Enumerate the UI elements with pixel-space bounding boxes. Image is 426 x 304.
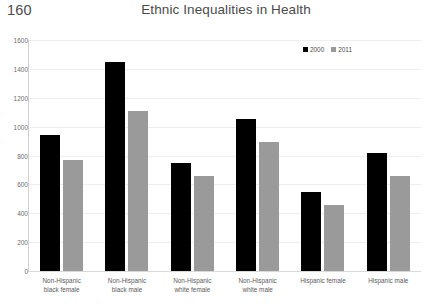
axis-baseline: [29, 271, 421, 272]
bar-2000[interactable]: [105, 62, 125, 271]
bar-group: [29, 40, 94, 271]
legend-square-black-icon: [303, 47, 308, 52]
legend-label: 2011: [338, 46, 352, 53]
bar-2000[interactable]: [236, 119, 256, 271]
bar-2000[interactable]: [301, 192, 321, 271]
y-tick-label: 600: [2, 181, 28, 188]
x-tick-label: Non-Hispanicwhite male: [225, 273, 290, 303]
bar-group: [356, 40, 421, 271]
bar-groups: [29, 40, 421, 271]
bar-2000[interactable]: [171, 163, 191, 271]
legend-square-gray-icon: [331, 47, 336, 52]
bar-pair: [29, 40, 94, 271]
page-title: Ethnic Inequalities in Health: [0, 2, 426, 17]
chart-legend: 2000 2011: [303, 46, 352, 53]
y-tick-label: 1600: [2, 37, 28, 44]
bar-pair: [94, 40, 159, 271]
legend-item-2000[interactable]: 2000: [303, 46, 324, 53]
bar-2011[interactable]: [324, 205, 344, 271]
bar-2011[interactable]: [390, 176, 410, 271]
bar-pair: [356, 40, 421, 271]
bar-2011[interactable]: [259, 142, 279, 271]
bar-group: [94, 40, 159, 271]
y-tick-label: 800: [2, 152, 28, 159]
legend-label: 2000: [310, 46, 324, 53]
bar-group: [160, 40, 225, 271]
x-tick-label: Hispanic male: [356, 273, 421, 303]
bar-pair: [225, 40, 290, 271]
legend-item-2011[interactable]: 2011: [331, 46, 352, 53]
y-tick-label: 0: [2, 268, 28, 275]
bar-group: [225, 40, 290, 271]
bar-pair: [160, 40, 225, 271]
plot-area: [29, 40, 421, 271]
bar-2011[interactable]: [128, 111, 148, 271]
page-header: 160 Ethnic Inequalities in Health: [0, 0, 426, 26]
y-tick-label: 200: [2, 239, 28, 246]
bar-2000[interactable]: [40, 135, 60, 271]
x-tick-label: Non-Hispanicblack female: [29, 273, 94, 303]
bar-2011[interactable]: [63, 160, 83, 271]
y-tick-label: 1400: [2, 65, 28, 72]
x-axis-labels: Non-Hispanicblack femaleNon-Hispanicblac…: [29, 273, 421, 303]
x-tick-label: Non-Hispanicwhite female: [160, 273, 225, 303]
bar-2000[interactable]: [367, 153, 387, 271]
y-tick-label: 1000: [2, 123, 28, 130]
bar-pair: [290, 40, 355, 271]
y-axis-ticks: 02004006008001000120014001600: [0, 40, 28, 271]
bar-chart: 02004006008001000120014001600 Non-Hispan…: [0, 30, 426, 304]
x-tick-label: Non-Hispanicblack male: [94, 273, 159, 303]
bar-group: [290, 40, 355, 271]
bar-2011[interactable]: [194, 176, 214, 271]
y-tick-label: 400: [2, 210, 28, 217]
x-tick-label: Hispanic female: [290, 273, 355, 303]
y-tick-label: 1200: [2, 94, 28, 101]
